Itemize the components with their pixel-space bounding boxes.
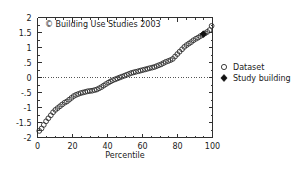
y-tick-label: 1.5 — [19, 29, 32, 38]
y-tick-label: 1 — [26, 44, 31, 53]
percentile-distribution-chart: 21.51.50-.5-1-1.5-2 020406080100 © Build… — [0, 0, 304, 171]
chart-figure: 21.51.50-.5-1-1.5-2 020406080100 © Build… — [0, 0, 304, 171]
x-tick-label: 100 — [205, 142, 220, 151]
x-tick-label: 80 — [172, 142, 182, 151]
y-tick-label: -1 — [24, 104, 32, 113]
y-tick-label: 0 — [26, 74, 31, 83]
x-tick-label: 0 — [35, 142, 40, 151]
x-tick-label: 60 — [137, 142, 147, 151]
y-tick-label: -2 — [24, 134, 32, 143]
legend-label-dataset: Dataset — [233, 63, 264, 72]
y-tick-label: -1.5 — [16, 119, 32, 128]
x-tick-label: 20 — [67, 142, 77, 151]
y-tick-label: 2 — [26, 14, 31, 23]
y-tick-label: .5 — [24, 59, 32, 68]
copyright-annotation: © Building Use Studies 2003 — [45, 20, 161, 29]
y-tick-label: -.5 — [21, 89, 32, 98]
legend-label-study-building: Study building — [233, 74, 291, 83]
x-tick-label: 40 — [102, 142, 112, 151]
x-axis-title: Percentile — [105, 151, 145, 160]
